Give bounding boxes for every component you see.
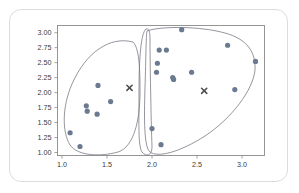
y-axis-ticks: 1.001.251.501.752.002.252.502.753.00 bbox=[38, 28, 58, 157]
y-tick-label: 1.00 bbox=[38, 148, 52, 157]
y-tick-label: 2.00 bbox=[38, 88, 52, 97]
centroid-right bbox=[202, 88, 207, 93]
y-tick-label: 1.25 bbox=[38, 133, 52, 142]
data-point bbox=[149, 126, 154, 131]
data-point bbox=[225, 43, 230, 48]
data-point bbox=[232, 87, 237, 92]
data-point bbox=[95, 83, 100, 88]
y-tick-label: 1.50 bbox=[38, 118, 52, 127]
data-point bbox=[253, 59, 258, 64]
hull-left bbox=[64, 41, 140, 155]
data-point bbox=[189, 70, 194, 75]
x-tick-label: 1.0 bbox=[57, 160, 67, 169]
x-tick-label: 2.5 bbox=[192, 160, 202, 169]
y-tick-label: 2.50 bbox=[38, 58, 52, 67]
data-point bbox=[85, 109, 90, 114]
data-point bbox=[157, 47, 162, 52]
hull-right bbox=[145, 27, 256, 154]
x-axis-ticks: 1.01.52.02.53.0 bbox=[57, 156, 247, 169]
data-point bbox=[171, 77, 176, 82]
y-tick-label: 2.75 bbox=[38, 43, 52, 52]
data-point bbox=[155, 61, 160, 66]
centroid-left bbox=[127, 85, 132, 90]
data-point bbox=[68, 130, 73, 135]
data-point bbox=[158, 142, 163, 147]
y-tick-label: 2.25 bbox=[38, 73, 52, 82]
data-point bbox=[95, 112, 100, 117]
y-tick-label: 1.75 bbox=[38, 103, 52, 112]
x-tick-label: 2.0 bbox=[147, 160, 157, 169]
x-tick-label: 1.5 bbox=[102, 160, 112, 169]
data-point bbox=[77, 144, 82, 149]
data-point bbox=[108, 99, 113, 104]
data-point bbox=[154, 70, 159, 75]
data-point bbox=[179, 27, 184, 32]
x-tick-label: 3.0 bbox=[237, 160, 247, 169]
data-point bbox=[84, 103, 89, 108]
data-points bbox=[68, 27, 259, 149]
y-tick-label: 3.00 bbox=[38, 28, 52, 37]
scatter-plot: 1.001.251.501.752.002.252.502.753.00 1.0… bbox=[0, 0, 299, 193]
data-point bbox=[164, 47, 169, 52]
plot-svg: 1.001.251.501.752.002.252.502.753.00 1.0… bbox=[0, 0, 299, 193]
